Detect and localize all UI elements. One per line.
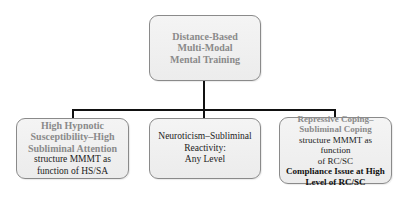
child3-title-1: Repressive Coping–	[297, 114, 373, 125]
child3-emphasis-2: Level of RC/SC	[306, 177, 366, 188]
child1-body-2: function of HS/SA	[37, 166, 108, 178]
child3-body-2: of RC/SC	[318, 156, 353, 167]
child1-body-1: structure MMMT as	[34, 154, 111, 166]
root-line-3: Mental Training	[170, 54, 240, 66]
child1-title-3: Subliminal Attention	[28, 143, 117, 155]
child3-body-1: structure MMMT as function	[283, 135, 388, 156]
child3-emphasis-1: Compliance Issue at High	[286, 166, 385, 177]
child2-body-2: Reactivity:	[184, 143, 226, 155]
root-connector	[203, 80, 205, 111]
child2-body-3: Any Level	[185, 154, 225, 166]
child-node-neuroticism: Neuroticism–Subliminal Reactivity: Any L…	[149, 118, 261, 179]
root-line-1: Distance-Based	[172, 31, 238, 43]
child1-title-2: Susceptibility–High	[31, 131, 115, 143]
child1-title-1: High Hypnotic	[41, 120, 104, 132]
root-line-2: Multi-Modal	[178, 42, 233, 54]
child-node-repressive: Repressive Coping– Subliminal Coping str…	[279, 117, 392, 184]
child2-body-1: Neuroticism–Subliminal	[158, 131, 251, 143]
child-node-hypnotic: High Hypnotic Susceptibility–High Sublim…	[16, 118, 129, 179]
child3-title-2: Subliminal Coping	[299, 124, 371, 135]
root-node: Distance-Based Multi-Modal Mental Traini…	[149, 15, 261, 81]
